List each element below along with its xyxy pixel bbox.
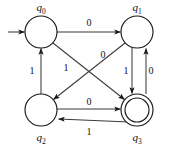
edge-label-q3-q2: 1: [87, 126, 92, 137]
edge-label-q3-q1: 0: [149, 65, 154, 76]
state-label-q0: q0: [36, 1, 46, 16]
edge-label-q1-q2: 0: [101, 49, 106, 60]
edge-label-q0-q1: 0: [87, 17, 92, 28]
state-label-q2: q2: [36, 131, 46, 146]
edge-label-q2-q0: 1: [30, 65, 35, 76]
state-node-q0[interactable]: [25, 16, 57, 48]
state-node-q1[interactable]: [121, 16, 153, 48]
edge-q3-q2: [59, 119, 130, 122]
edge-label-q2-q3: 0: [87, 96, 92, 107]
state-node-q3-inner-accepting-ring: [125, 98, 149, 122]
automaton-diagram: q0 q1 q2 q3 0 1 0 1 1 0 0 1: [0, 0, 169, 148]
edge-label-q1-q3: 1: [124, 65, 129, 76]
state-label-q3: q3: [132, 131, 142, 146]
edge-label-q0-q3: 1: [64, 62, 69, 73]
state-label-q1: q1: [132, 1, 142, 16]
state-diagram-canvas: q0 q1 q2 q3 0 1 0 1 1 0 0 1: [0, 0, 169, 148]
state-node-q2[interactable]: [25, 94, 57, 126]
